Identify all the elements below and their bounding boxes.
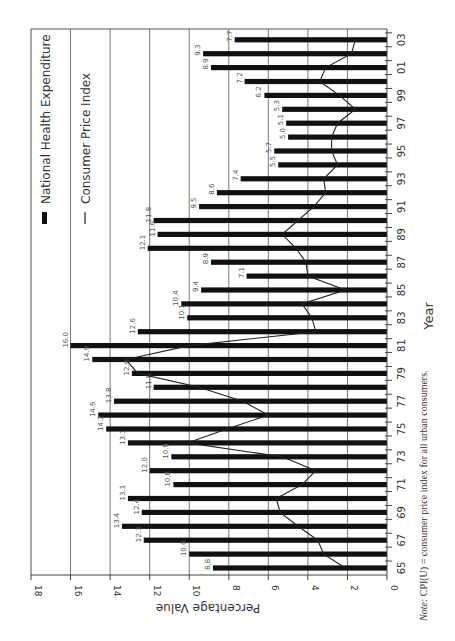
legend: National Health Expenditure Consumer Pri… [39,34,93,224]
bar-value-label: 10.4 [172,290,180,306]
bar-value-label: 13.4 [113,512,121,528]
bar [106,426,387,431]
bar [213,565,387,570]
bar [122,524,387,529]
chart-svg: 8.810.012.313.412.413.110.812.010.913.11… [0,0,455,641]
bar [132,371,387,376]
year-tick-label: 91 [396,200,407,213]
year-tick-label: 01 [396,61,407,74]
year-tick-label: 81 [396,339,407,352]
bar [138,329,387,334]
year-tick-label: 69 [396,506,407,519]
bar [189,552,387,557]
bar-value-label: 9.5 [190,197,198,208]
bar-value-label: 5.5 [269,156,277,167]
value-tick-label: 4 [310,585,320,591]
year-tick-label: 75 [396,423,407,436]
bar-value-label: 5.0 [279,128,287,139]
bar [211,65,387,70]
year-tick-label: 85 [396,284,407,297]
bar-value-label: 13.1 [119,429,127,445]
bar [187,315,387,320]
bar-value-label: 8.8 [204,559,212,570]
bar [274,148,387,153]
bar [247,274,387,279]
bar-value-label: 5.3 [273,100,281,111]
bar [128,496,387,501]
bar-value-label: 8.9 [202,58,210,69]
year-tick-label: 89 [396,228,407,241]
year-tick-label: 71 [396,478,407,491]
year-tick-label: 83 [396,311,407,324]
bar [114,399,387,404]
bar [278,162,387,167]
bar-value-label: 10.8 [164,471,172,487]
bar-value-label: 12.6 [129,318,137,334]
year-tick-label: 79 [396,367,407,380]
bar [158,232,387,237]
legend-bar-swatch-icon [42,212,47,224]
year-tick-label: 67 [396,534,407,547]
bar-value-label: 7.2 [236,72,244,83]
value-tick-label: 0 [389,585,399,591]
value-tick-label: 10 [191,585,201,597]
bar-value-label: 8.6 [208,183,216,195]
bar-value-label: 7.4 [232,169,240,181]
value-tick-label: 14 [112,585,122,597]
bar-value-label: 11.8 [145,207,153,223]
bar [245,79,387,84]
value-tick-label: 12 [152,585,162,596]
year-tick-label: 87 [396,256,407,269]
bar-value-label: 10.9 [162,443,170,459]
bar-value-label: 9.4 [192,280,200,292]
y-axis-title: Percentage Value [156,601,260,615]
bar [217,190,387,195]
year-tick-label: 03 [396,33,407,46]
bar-value-label: 12.4 [133,498,141,514]
bar-value-label: 9.3 [194,45,202,56]
bar [235,37,387,42]
value-tick-label: 2 [349,585,359,591]
note-text: CPI(U) = consumer price index for all ur… [418,370,429,598]
bar-value-label: 13.1 [119,485,127,501]
footnote: Note: CPI(U) = consumer price index for … [418,370,429,641]
bar [203,51,387,56]
bar [71,343,387,348]
bar-value-label: 13.8 [105,388,113,404]
bar-value-label: 8.9 [202,253,210,264]
bar-value-label: 14.9 [83,346,91,362]
value-tick-label: 18 [33,585,43,597]
value-tick-label: 8 [231,585,241,591]
bar-value-label: 12.3 [135,527,143,543]
bar-value-label: 14.2 [97,415,105,431]
bar [241,176,387,181]
value-tick-label: 16 [73,585,83,597]
bar [211,260,387,265]
x-axis-title: Year [421,302,436,331]
bar-value-label: 5.1 [277,114,285,125]
bar [173,482,387,487]
bar-value-label: 7.1 [238,267,246,278]
year-tick-label: 97 [396,117,407,130]
bar-value-label: 5.7 [265,142,273,153]
year-tick-label: 93 [396,172,407,185]
bar-value-label: 12.9 [123,360,131,376]
year-tick-label: 65 [396,562,407,575]
bar-value-label: 16.0 [62,332,70,348]
bar-value-label: 6.2 [255,86,263,97]
bar [154,218,387,223]
bar [148,246,387,251]
year-tick-label: 77 [396,395,407,408]
bar-value-label: 14.6 [89,401,97,417]
bar [150,468,387,473]
legend-label-nhe: National Health Expenditure [39,34,53,204]
note-prefix: Note: [418,599,429,621]
bar [199,204,387,209]
year-tick-label: 73 [396,450,407,463]
bar-value-label: 7.7 [226,31,234,42]
bar-value-label: 12.0 [141,457,149,473]
bar [288,135,387,140]
bar [282,107,387,112]
bar [142,510,387,515]
legend-label-cpi: Consumer Price Index [79,73,93,204]
